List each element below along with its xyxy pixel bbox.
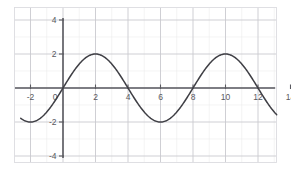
x-tick-label: 8 xyxy=(191,92,196,102)
x-tick-label: 2 xyxy=(93,92,98,102)
y-tick-label: -4 xyxy=(49,151,57,161)
y-tick-label: 2 xyxy=(52,49,57,59)
y-tick-label: -2 xyxy=(49,117,57,127)
y-tick-label: 4 xyxy=(52,15,57,25)
x-tick-label: -2 xyxy=(27,92,35,102)
sine-wave-plot: -202468101214-4-224 xyxy=(0,0,291,173)
x-tick-label: 10 xyxy=(221,92,231,102)
x-tick-label: 4 xyxy=(126,92,131,102)
x-tick-label: 6 xyxy=(158,92,163,102)
chart-figure: -202468101214-4-224 xyxy=(0,0,291,173)
figure-background xyxy=(0,0,291,173)
x-tick-label: 14 xyxy=(286,92,291,102)
